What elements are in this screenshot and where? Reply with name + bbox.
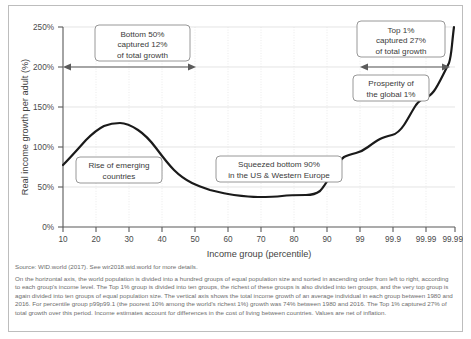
x-tick-label: 10 bbox=[58, 235, 68, 244]
x-tick-label: 30 bbox=[124, 235, 134, 244]
top-1-callout-line-2: captured 27% bbox=[376, 36, 426, 45]
elephant-curve-figure: 250% 200% 150% 100% 50% 0% 10 20 30 40 5… bbox=[0, 0, 471, 339]
y-tick-label: 200% bbox=[33, 63, 54, 72]
y-tick-label: 100% bbox=[33, 143, 54, 152]
x-tick-label: 60 bbox=[223, 235, 233, 244]
prosperity-callout: Prosperity of the global 1% bbox=[353, 75, 429, 101]
prosperity-callout-line-2: the global 1% bbox=[366, 90, 415, 99]
top-1-callout-line-1: Top 1% bbox=[388, 26, 415, 35]
chart-plot-area: 250% 200% 150% 100% 50% 0% 10 20 30 40 5… bbox=[8, 5, 463, 263]
x-tick-label: 99 bbox=[355, 235, 365, 244]
x-tick-label: 50 bbox=[190, 235, 200, 244]
prosperity-callout-line-1: Prosperity of bbox=[368, 79, 414, 88]
squeezed-callout-line-1: Squeezed bottom 90% bbox=[238, 160, 320, 169]
footnote-body: On the horizontal axis, the world popula… bbox=[15, 275, 455, 318]
y-axis-title: Real income growth per adult (%) bbox=[20, 59, 30, 195]
x-tick-label: 20 bbox=[91, 235, 101, 244]
squeezed-callout-line-2: in the US & Western Europe bbox=[228, 171, 330, 180]
bottom-50-span-arrow bbox=[63, 64, 196, 71]
y-tick-labels: 250% 200% 150% 100% 50% 0% bbox=[33, 23, 54, 232]
rise-emerging-callout: Rise of emerging countries bbox=[76, 157, 162, 183]
x-tick-labels: 10 20 30 40 50 60 70 80 90 99 99.9 99.99… bbox=[58, 235, 463, 244]
top-1-callout-line-3: of total growth bbox=[376, 47, 427, 56]
bottom-50-callout-line-3: of total growth bbox=[117, 51, 168, 60]
bottom-50-callout-line-2: captured 12% bbox=[118, 40, 168, 49]
rise-emerging-callout-line-1: Rise of emerging bbox=[88, 161, 149, 170]
y-tick-label: 0% bbox=[42, 223, 54, 232]
x-tick-label: 70 bbox=[256, 235, 266, 244]
top-1-callout: Top 1% captured 27% of total growth bbox=[357, 21, 445, 57]
bottom-50-callout-line-1: Bottom 50% bbox=[120, 30, 164, 39]
chart-svg: 250% 200% 150% 100% 50% 0% 10 20 30 40 5… bbox=[8, 5, 463, 263]
footnote-block: Source: WID.world (2017). See wir2018.wi… bbox=[9, 263, 461, 317]
x-axis-title: Income group (percentile) bbox=[207, 249, 312, 259]
top-1-span-arrow bbox=[360, 64, 450, 71]
y-tick-label: 50% bbox=[38, 183, 54, 192]
x-tick-label: 40 bbox=[157, 235, 167, 244]
y-tick-label: 150% bbox=[33, 103, 54, 112]
squeezed-callout: Squeezed bottom 90% in the US & Western … bbox=[216, 156, 342, 182]
y-tick-label: 250% bbox=[33, 23, 54, 32]
x-tick-label: 99.99 bbox=[416, 235, 437, 244]
x-tick-label: 99.9 bbox=[385, 235, 401, 244]
bottom-50-callout: Bottom 50% captured 12% of total growth bbox=[95, 25, 190, 61]
footnote-source: Source: WID.world (2017). See wir2018.wi… bbox=[15, 263, 455, 272]
x-tick-label: 90 bbox=[322, 235, 332, 244]
rise-emerging-callout-line-2: countries bbox=[103, 172, 136, 181]
x-tick-label: 80 bbox=[289, 235, 299, 244]
x-tick-label: 99.999 bbox=[442, 235, 463, 244]
